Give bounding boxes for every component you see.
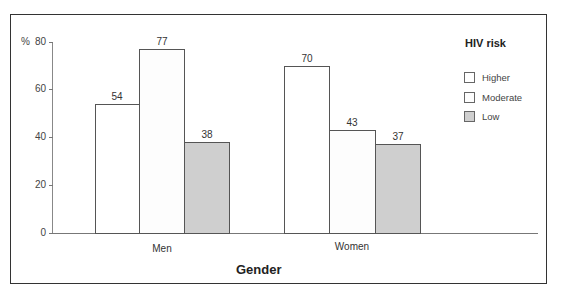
value-label-women-higher: 70 xyxy=(285,53,329,64)
y-tick-40 xyxy=(49,137,53,138)
value-label-women-low: 37 xyxy=(376,131,420,142)
legend-label-higher: Higher xyxy=(482,72,510,83)
bar-women-moderate xyxy=(329,130,376,234)
legend-swatch-moderate xyxy=(464,92,475,103)
legend-swatch-higher xyxy=(464,72,475,83)
legend-item-moderate: Moderate xyxy=(464,92,522,103)
y-tick-20 xyxy=(49,185,53,186)
x-axis-title: Gender xyxy=(236,262,282,277)
bar-women-low xyxy=(375,144,421,234)
y-tick-80 xyxy=(49,42,53,43)
bar-men-higher xyxy=(95,104,140,234)
y-tick-label-60: 60 xyxy=(22,83,46,94)
legend-label-low: Low xyxy=(482,111,499,122)
y-tick-label-0: 0 xyxy=(22,227,46,238)
legend-title: HIV risk xyxy=(465,37,506,49)
y-tick-60 xyxy=(49,89,53,90)
y-tick-label-40: 40 xyxy=(22,131,46,142)
bar-men-low xyxy=(184,142,230,234)
category-label-women: Women xyxy=(312,241,392,252)
bar-men-moderate xyxy=(139,49,185,234)
legend-label-moderate: Moderate xyxy=(482,92,522,103)
y-tick-label-20: 20 xyxy=(22,179,46,190)
category-label-men: Men xyxy=(122,243,202,254)
chart-frame xyxy=(10,14,547,284)
legend-item-low: Low xyxy=(464,111,499,122)
legend-swatch-low xyxy=(464,111,475,122)
value-label-men-low: 38 xyxy=(185,129,229,140)
value-label-men-moderate: 77 xyxy=(140,36,184,47)
y-tick-label-80: 80 xyxy=(22,36,46,47)
value-label-women-moderate: 43 xyxy=(330,117,374,128)
legend-item-higher: Higher xyxy=(464,72,510,83)
bar-women-higher xyxy=(284,66,330,234)
value-label-men-higher: 54 xyxy=(95,91,139,102)
